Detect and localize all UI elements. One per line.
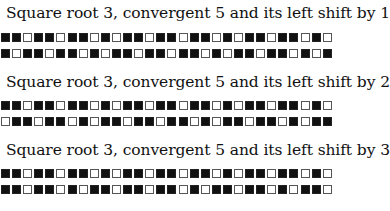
black-square bbox=[278, 101, 287, 110]
black-square bbox=[45, 33, 54, 42]
white-square bbox=[267, 101, 276, 110]
black-square bbox=[234, 117, 243, 126]
black-square bbox=[12, 117, 21, 126]
black-square bbox=[134, 33, 143, 42]
white-square bbox=[145, 169, 154, 178]
white-square bbox=[90, 169, 99, 178]
black-square bbox=[34, 101, 43, 110]
white-square bbox=[312, 49, 321, 58]
black-square bbox=[223, 101, 232, 110]
white-square bbox=[23, 169, 32, 178]
square-row bbox=[1, 185, 334, 196]
white-square bbox=[112, 169, 121, 178]
black-square bbox=[134, 185, 143, 194]
white-square bbox=[301, 101, 310, 110]
white-square bbox=[301, 169, 310, 178]
black-square bbox=[23, 117, 32, 126]
black-square bbox=[45, 101, 54, 110]
black-square bbox=[223, 33, 232, 42]
black-square bbox=[256, 101, 265, 110]
black-square bbox=[45, 117, 54, 126]
black-square bbox=[56, 117, 65, 126]
black-square bbox=[167, 101, 176, 110]
black-square bbox=[23, 49, 32, 58]
white-square bbox=[34, 117, 43, 126]
black-square bbox=[179, 49, 188, 58]
white-square bbox=[112, 101, 121, 110]
black-square bbox=[278, 49, 287, 58]
black-square bbox=[212, 49, 221, 58]
black-square bbox=[112, 49, 121, 58]
black-square bbox=[167, 117, 176, 126]
black-square bbox=[312, 117, 321, 126]
black-square bbox=[68, 169, 77, 178]
black-square bbox=[1, 185, 10, 194]
square-row bbox=[1, 101, 334, 112]
black-square bbox=[68, 49, 77, 58]
black-square bbox=[289, 169, 298, 178]
white-square bbox=[79, 185, 88, 194]
white-square bbox=[245, 117, 254, 126]
black-square bbox=[79, 33, 88, 42]
black-square bbox=[267, 49, 276, 58]
black-square bbox=[134, 117, 143, 126]
black-square bbox=[123, 33, 132, 42]
white-square bbox=[56, 101, 65, 110]
black-square bbox=[1, 33, 10, 42]
white-square bbox=[201, 49, 210, 58]
black-square bbox=[12, 169, 21, 178]
white-square bbox=[134, 49, 143, 58]
black-square bbox=[312, 101, 321, 110]
white-square bbox=[156, 117, 165, 126]
black-square bbox=[190, 49, 199, 58]
black-square bbox=[101, 101, 110, 110]
black-square bbox=[145, 117, 154, 126]
white-square bbox=[212, 117, 221, 126]
white-square bbox=[79, 49, 88, 58]
black-square bbox=[223, 117, 232, 126]
white-square bbox=[101, 49, 110, 58]
black-square bbox=[323, 117, 332, 126]
white-square bbox=[267, 185, 276, 194]
caption: Square root 3, convergent 5 and its left… bbox=[6, 141, 390, 159]
black-square bbox=[134, 101, 143, 110]
white-square bbox=[1, 117, 10, 126]
caption: Square root 3, convergent 5 and its left… bbox=[6, 4, 390, 22]
white-square bbox=[278, 117, 287, 126]
black-square bbox=[301, 185, 310, 194]
black-square bbox=[34, 169, 43, 178]
black-square bbox=[79, 169, 88, 178]
black-square bbox=[34, 185, 43, 194]
black-square bbox=[1, 49, 10, 58]
white-square bbox=[190, 117, 199, 126]
white-square bbox=[56, 185, 65, 194]
white-square bbox=[23, 185, 32, 194]
black-square bbox=[134, 169, 143, 178]
black-square bbox=[245, 185, 254, 194]
black-square bbox=[201, 117, 210, 126]
white-square bbox=[323, 169, 332, 178]
black-square bbox=[190, 33, 199, 42]
black-square bbox=[145, 49, 154, 58]
caption: Square root 3, convergent 5 and its left… bbox=[6, 73, 390, 91]
black-square bbox=[278, 33, 287, 42]
white-square bbox=[256, 49, 265, 58]
black-square bbox=[256, 117, 265, 126]
white-square bbox=[90, 117, 99, 126]
white-square bbox=[179, 185, 188, 194]
black-square bbox=[223, 169, 232, 178]
black-square bbox=[123, 101, 132, 110]
black-square bbox=[245, 101, 254, 110]
black-square bbox=[234, 49, 243, 58]
black-square bbox=[289, 33, 298, 42]
white-square bbox=[68, 117, 77, 126]
white-square bbox=[234, 33, 243, 42]
black-square bbox=[123, 169, 132, 178]
black-square bbox=[156, 185, 165, 194]
black-square bbox=[256, 169, 265, 178]
white-square bbox=[201, 185, 210, 194]
black-square bbox=[156, 33, 165, 42]
black-square bbox=[179, 117, 188, 126]
white-square bbox=[123, 117, 132, 126]
white-square bbox=[289, 185, 298, 194]
